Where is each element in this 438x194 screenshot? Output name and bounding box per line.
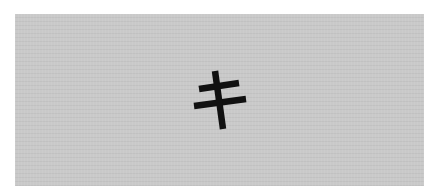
handwritten-character-ki: [0, 0, 438, 194]
vertical-stroke: [215, 71, 223, 129]
